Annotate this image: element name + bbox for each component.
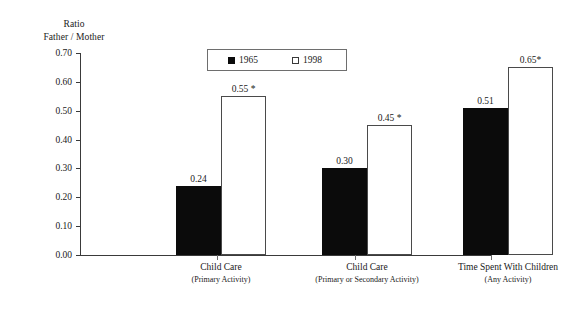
bar-1965-group-3: 0.51 <box>463 108 508 255</box>
bar-value-label: 0.51 <box>477 96 494 106</box>
bar-value-label: 0.45 * <box>378 113 402 123</box>
y-axis-tick-label: 0.30 <box>34 164 72 174</box>
y-axis-tick-label: 0.50 <box>34 107 72 117</box>
y-axis-tick-mark <box>76 111 81 112</box>
bar-1998-group-2: 0.45 * <box>367 125 412 255</box>
category-label-3: Time Spent With Children(Any Activity) <box>408 261 563 286</box>
bar-1965-group-2: 0.30 <box>322 168 367 255</box>
y-axis-tick-label: 0.60 <box>34 78 72 88</box>
category-label-sub: (Any Activity) <box>408 274 563 286</box>
bar-1998-group-3: 0.65* <box>508 67 553 255</box>
y-axis-tick-mark <box>76 226 81 227</box>
bar-1965-group-1: 0.24 <box>176 186 221 255</box>
bar-value-label: 0.65* <box>520 55 541 65</box>
plot-area: 0.700.600.500.400.300.200.100.00 0.240.5… <box>80 53 492 255</box>
y-axis-tick-mark <box>76 255 81 256</box>
y-axis-label-line-1: Ratio <box>18 18 130 31</box>
x-axis-line <box>80 255 492 256</box>
bar-value-label: 0.55 * <box>232 84 256 94</box>
y-axis-tick-mark <box>76 140 81 141</box>
category-label-main: Time Spent With Children <box>408 261 563 274</box>
y-axis-tick-label: 0.70 <box>34 49 72 59</box>
x-axis-tick-1 <box>217 255 218 260</box>
y-axis-tick-label: 0.20 <box>34 193 72 203</box>
y-axis-tick-mark <box>76 197 81 198</box>
bar-value-label: 0.24 <box>190 174 207 184</box>
y-axis-tick-mark <box>76 168 81 169</box>
x-axis-tick-3 <box>491 255 492 260</box>
y-axis-tick-mark <box>76 82 81 83</box>
y-axis-tick-mark <box>76 53 81 54</box>
x-axis-tick-2 <box>355 255 356 260</box>
bar-value-label: 0.30 <box>336 156 353 166</box>
bar-1998-group-1: 0.55 * <box>221 96 266 255</box>
y-axis-tick-label: 0.10 <box>34 222 72 232</box>
y-axis-label-line-2: Father / Mother <box>18 31 130 44</box>
y-axis-label: Ratio Father / Mother <box>18 18 130 43</box>
y-axis-tick-label: 0.00 <box>34 251 72 261</box>
y-axis-tick-label: 0.40 <box>34 136 72 146</box>
